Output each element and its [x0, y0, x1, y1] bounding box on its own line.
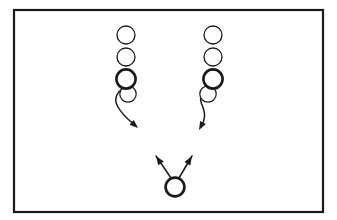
quarterback-circle[interactable] [166, 178, 185, 197]
right-player-3[interactable] [203, 69, 222, 88]
left-player-3[interactable] [116, 69, 135, 88]
right-player-1[interactable] [204, 26, 222, 44]
right-player-2[interactable] [204, 48, 222, 66]
left-player-2[interactable] [117, 48, 135, 66]
play-diagram-canvas [0, 0, 337, 220]
left-player-1[interactable] [117, 26, 135, 44]
play-diagram-svg [0, 0, 337, 220]
